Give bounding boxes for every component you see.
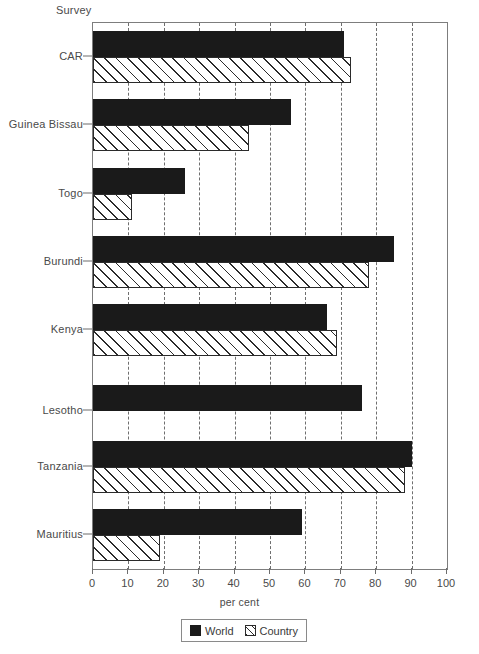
x-axis-tick bbox=[340, 568, 341, 574]
legend-entry-country: Country bbox=[245, 625, 299, 637]
category-tick bbox=[83, 260, 92, 261]
bar-country bbox=[93, 535, 160, 561]
bar-country bbox=[93, 57, 351, 83]
bar-world bbox=[93, 31, 344, 57]
x-axis-tick bbox=[163, 568, 164, 574]
x-axis-tick-label: 10 bbox=[121, 577, 133, 589]
x-axis-tick-label: 0 bbox=[89, 577, 95, 589]
bar-country bbox=[93, 194, 132, 220]
hatched-square-icon bbox=[245, 625, 256, 636]
category-label: Mauritius bbox=[37, 528, 83, 540]
bar-world bbox=[93, 236, 394, 262]
bar-world bbox=[93, 441, 412, 467]
plot-area bbox=[92, 22, 448, 570]
y-axis-title: Survey bbox=[56, 4, 91, 16]
bar-country bbox=[93, 262, 369, 288]
bar-group bbox=[93, 160, 447, 228]
bar-world bbox=[93, 385, 362, 411]
x-axis-tick bbox=[304, 568, 305, 574]
x-axis-tick bbox=[92, 568, 93, 574]
x-axis-tick-label: 90 bbox=[404, 577, 416, 589]
plot-inner bbox=[93, 23, 447, 569]
x-axis-tick bbox=[446, 568, 447, 574]
category-label: Kenya bbox=[51, 323, 83, 335]
x-axis-tick-label: 60 bbox=[298, 577, 310, 589]
x-axis-tick bbox=[234, 568, 235, 574]
bar-group bbox=[93, 23, 447, 91]
category-label: Guinea Bissau bbox=[9, 118, 83, 130]
chart-legend: World Country bbox=[181, 619, 307, 642]
x-axis-tick bbox=[269, 568, 270, 574]
x-axis-tick bbox=[375, 568, 376, 574]
bar-group bbox=[93, 433, 447, 501]
x-axis-tick-label: 50 bbox=[263, 577, 275, 589]
bar-world bbox=[93, 99, 291, 125]
bar-group bbox=[93, 228, 447, 296]
legend-entry-world: World bbox=[190, 625, 234, 637]
legend-label-world: World bbox=[205, 625, 234, 637]
category-tick bbox=[83, 410, 92, 411]
category-tick bbox=[83, 192, 92, 193]
legend-label-country: Country bbox=[260, 625, 299, 637]
bar-world bbox=[93, 168, 185, 194]
x-axis-tick bbox=[411, 568, 412, 574]
category-tick bbox=[83, 465, 92, 466]
bar-group bbox=[93, 364, 447, 432]
x-axis-tick-label: 20 bbox=[157, 577, 169, 589]
category-tick bbox=[83, 533, 92, 534]
category-label: Togo bbox=[58, 187, 83, 199]
category-tick bbox=[83, 124, 92, 125]
category-label: CAR bbox=[59, 50, 83, 62]
x-axis-tick bbox=[198, 568, 199, 574]
bar-group bbox=[93, 296, 447, 364]
x-axis-tick-label: 80 bbox=[369, 577, 381, 589]
bar-chart: Survey CARGuinea BissauTogoBurundiKenyaL… bbox=[0, 0, 479, 654]
category-label: Tanzania bbox=[37, 460, 83, 472]
bar-world bbox=[93, 509, 302, 535]
x-axis-tick-label: 30 bbox=[192, 577, 204, 589]
category-tick bbox=[83, 329, 92, 330]
bar-country bbox=[93, 125, 249, 151]
x-axis-tick bbox=[127, 568, 128, 574]
bar-country bbox=[93, 330, 337, 356]
category-label: Burundi bbox=[44, 255, 83, 267]
bar-world bbox=[93, 304, 327, 330]
bar-country bbox=[93, 467, 405, 493]
bar-group bbox=[93, 91, 447, 159]
solid-black-square-icon bbox=[190, 625, 201, 636]
x-axis-title: per cent bbox=[0, 596, 479, 608]
x-axis-tick-label: 40 bbox=[227, 577, 239, 589]
x-axis-tick-label: 100 bbox=[437, 577, 455, 589]
bar-group bbox=[93, 501, 447, 569]
category-tick bbox=[83, 56, 92, 57]
x-axis-tick-label: 70 bbox=[334, 577, 346, 589]
category-label: Lesotho bbox=[42, 404, 83, 416]
